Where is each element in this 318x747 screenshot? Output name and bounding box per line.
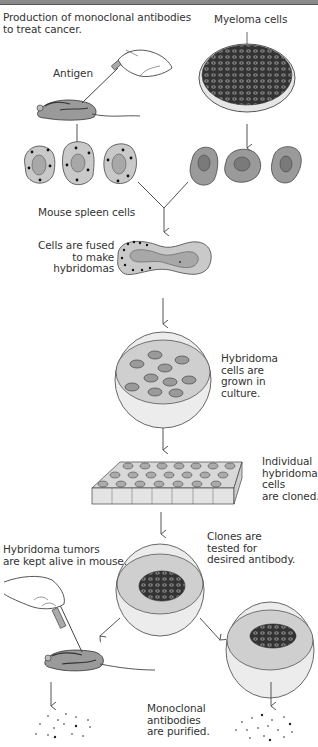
spleen-cell [25,146,55,183]
spleen-cell [104,144,137,184]
arrow-left [100,618,120,636]
antibodies-right [235,714,293,741]
label-tested: Clones are tested for desired antibody. [207,531,295,566]
label-myeloma-cells: Myeloma cells [214,14,287,26]
cloning-plate [92,462,242,504]
spleen-cell [62,142,94,185]
antibodies-left [35,713,91,738]
clone-dish [226,602,314,698]
culture-dish [115,332,211,428]
mouse-injection-illustration [37,50,172,120]
myeloma-dish [199,32,295,112]
testing-dish [116,544,204,636]
merge-arrows [138,182,188,232]
diagram-title: Production of monoclonal antibodies to t… [3,12,191,35]
arrow-right [200,618,220,640]
hybridoma-cell [118,241,212,275]
label-spleen-cells: Mouse spleen cells [38,207,135,219]
label-purified: Monoclonal antibodies are purified. [147,703,210,738]
label-cloned: Individual hybridoma cells are cloned. [262,456,318,502]
myeloma-cells [190,147,301,185]
label-antigen: Antigen [53,68,93,80]
spleen-cells [25,142,137,185]
label-culture: Hybridoma cells are grown in culture. [221,353,278,399]
label-tumors: Hybridoma tumors are kept alive in mouse… [3,544,127,567]
label-cells-fused: Cells are fused to make hybridomas [38,240,114,275]
